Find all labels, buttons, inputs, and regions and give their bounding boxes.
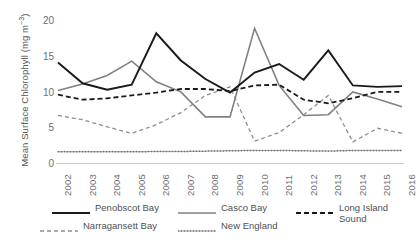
legend-swatch-icon [40, 222, 78, 232]
x-axis-tick-labels: 2002200320042005200620072008200920102011… [56, 166, 404, 200]
x-axis-tick-2006: 2006 [160, 174, 171, 196]
x-axis-tick-2007: 2007 [185, 174, 196, 196]
y-axis-tick-15: 15 [30, 52, 54, 62]
series-line-new-england [58, 150, 402, 151]
series-line-penobscot-bay [58, 33, 402, 92]
legend-item-narragansett-bay[interactable]: Narragansett Bay [40, 220, 157, 232]
y-axis-tick-5: 5 [30, 123, 54, 133]
plot-svg [56, 14, 404, 164]
x-axis-tick-2014: 2014 [357, 174, 368, 196]
y-axis-tick-10: 10 [30, 88, 54, 98]
legend-item-new-england[interactable]: New England [178, 220, 278, 232]
x-axis-tick-2004: 2004 [111, 174, 122, 196]
legend-item-casco-bay[interactable]: Casco Bay [178, 202, 267, 214]
legend-swatch-icon [178, 222, 216, 232]
x-axis-tick-2005: 2005 [136, 174, 147, 196]
plot-area [56, 14, 404, 164]
legend-label: Penobscot Bay [95, 202, 159, 213]
legend-swatch-icon [178, 204, 216, 214]
legend-label: Casco Bay [221, 202, 267, 213]
x-axis-tick-2010: 2010 [259, 174, 270, 196]
legend-item-penobscot-bay[interactable]: Penobscot Bay [52, 202, 159, 214]
legend-item-long-island-sound[interactable]: Long Island Sound [296, 202, 388, 224]
x-axis-tick-2011: 2011 [283, 175, 294, 196]
x-axis-tick-2003: 2003 [87, 174, 98, 196]
series-line-casco-bay [58, 28, 402, 117]
legend-label: Long Island Sound [339, 202, 388, 224]
x-axis-tick-2009: 2009 [234, 174, 245, 196]
x-axis-tick-2013: 2013 [332, 174, 343, 196]
legend-swatch-icon [296, 204, 334, 214]
x-axis-tick-2002: 2002 [62, 174, 73, 196]
x-axis-tick-2008: 2008 [209, 174, 220, 196]
legend-swatch-icon [52, 204, 90, 214]
x-axis-tick-2015: 2015 [381, 174, 392, 196]
y-axis-tick-0: 0 [30, 159, 54, 169]
y-axis-tick-20: 20 [30, 16, 54, 26]
chart-legend: Penobscot BayCasco BayLong Island SoundN… [0, 200, 408, 244]
legend-label: New England [221, 220, 278, 231]
legend-label: Narragansett Bay [83, 220, 157, 231]
x-axis-tick-2016: 2016 [406, 174, 417, 196]
x-axis-tick-2012: 2012 [308, 174, 319, 196]
